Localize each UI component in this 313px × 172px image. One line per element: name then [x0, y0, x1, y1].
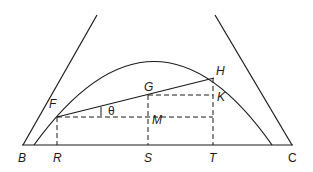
- label-b: B: [18, 151, 26, 165]
- label-t: T: [209, 151, 218, 165]
- left-wall-line: [23, 15, 97, 145]
- chord-fh: [57, 78, 214, 117]
- label-g: G: [144, 80, 153, 94]
- right-wall-line: [215, 15, 292, 145]
- label-r: R: [53, 151, 62, 165]
- label-f: F: [49, 97, 57, 111]
- label-h: H: [216, 64, 225, 78]
- label-c: C: [288, 151, 297, 165]
- label-m: M: [152, 113, 162, 127]
- label-s: S: [144, 151, 152, 165]
- trajectory-diagram: F G H K M θ B R S T C: [0, 0, 313, 172]
- parabolic-trajectory: [34, 62, 272, 146]
- label-k: K: [217, 90, 226, 104]
- label-theta: θ: [108, 104, 115, 118]
